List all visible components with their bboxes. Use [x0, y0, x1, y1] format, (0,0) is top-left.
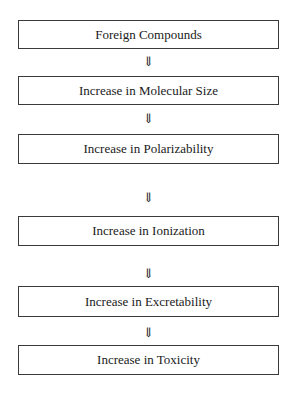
node-label: Increase in Molecular Size	[79, 83, 218, 99]
node-label: Increase in Excretability	[85, 294, 212, 310]
down-arrow-icon: ⇓	[0, 112, 297, 125]
down-arrow-icon: ⇓	[0, 326, 297, 339]
node-foreign-compounds: Foreign Compounds	[18, 20, 279, 49]
node-label: Foreign Compounds	[95, 27, 202, 43]
node-label: Increase in Ionization	[92, 223, 205, 239]
down-arrow-icon: ⇓	[0, 55, 297, 68]
node-excretability: Increase in Excretability	[18, 286, 279, 317]
node-label: Increase in Toxicity	[97, 352, 200, 368]
node-label: Increase in Polarizability	[84, 141, 214, 157]
node-polarizability: Increase in Polarizability	[18, 134, 279, 164]
node-ionization: Increase in Ionization	[18, 216, 279, 246]
down-arrow-icon: ⇓	[0, 267, 297, 280]
node-toxicity: Increase in Toxicity	[18, 345, 279, 375]
down-arrow-icon: ⇓	[0, 191, 297, 204]
node-molecular-size: Increase in Molecular Size	[18, 76, 279, 105]
